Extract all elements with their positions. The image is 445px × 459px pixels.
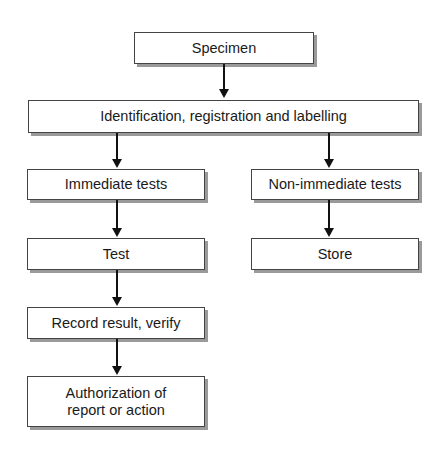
- arrow-down-icon: [324, 159, 334, 168]
- connector-line: [116, 200, 118, 228]
- node-label: Record result, verify: [52, 315, 181, 332]
- connector-line: [328, 200, 330, 228]
- arrow-down-icon: [112, 228, 122, 237]
- connector-line: [116, 270, 118, 298]
- node-label: Immediate tests: [65, 176, 167, 193]
- arrow-down-icon: [219, 89, 229, 98]
- connector-line: [116, 339, 118, 367]
- node-label: Test: [103, 246, 130, 263]
- arrow-down-icon: [112, 159, 122, 168]
- node-label: Non-immediate tests: [269, 176, 402, 193]
- arrow-down-icon: [112, 366, 122, 375]
- node-record-result: Record result, verify: [27, 307, 205, 339]
- node-specimen: Specimen: [134, 32, 314, 64]
- node-label: Authorization of report or action: [50, 385, 182, 419]
- node-test: Test: [27, 238, 205, 270]
- node-identification: Identification, registration and labelli…: [28, 100, 419, 133]
- node-authorization: Authorization of report or action: [27, 376, 205, 427]
- node-label: Identification, registration and labelli…: [100, 108, 347, 125]
- arrow-down-icon: [324, 228, 334, 237]
- connector-line: [328, 133, 330, 160]
- node-non-immediate-tests: Non-immediate tests: [251, 169, 419, 200]
- node-immediate-tests: Immediate tests: [27, 169, 205, 200]
- node-label: Store: [318, 246, 353, 263]
- arrow-down-icon: [112, 297, 122, 306]
- node-store: Store: [251, 238, 419, 270]
- connector-line: [116, 133, 118, 160]
- node-label: Specimen: [192, 40, 256, 57]
- connector-line: [223, 64, 225, 90]
